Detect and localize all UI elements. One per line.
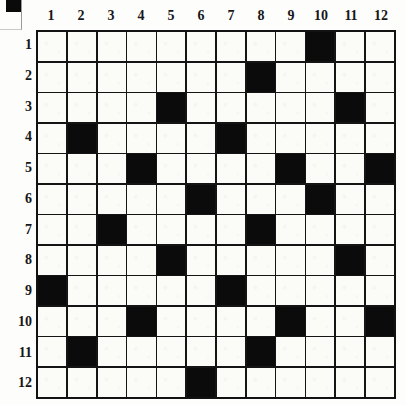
grid-cell-r4-c1[interactable] — [38, 124, 66, 153]
grid-cell-r7-c6[interactable] — [187, 215, 215, 244]
grid-cell-r7-c11[interactable] — [336, 215, 364, 244]
grid-cell-r4-c5[interactable] — [157, 124, 185, 153]
grid-cell-r9-c9[interactable] — [276, 276, 304, 305]
grid-cell-r2-c10[interactable] — [306, 63, 334, 92]
grid-cell-r3-c6[interactable] — [187, 93, 215, 122]
grid-cell-r6-c5[interactable] — [157, 185, 185, 214]
grid-cell-r3-c8[interactable] — [247, 93, 275, 122]
grid-cell-r1-c7[interactable] — [217, 32, 245, 61]
grid-cell-r2-c6[interactable] — [187, 63, 215, 92]
grid-cell-r2-c4[interactable] — [127, 63, 155, 92]
grid-cell-r12-c7[interactable] — [217, 368, 245, 397]
grid-cell-r7-c1[interactable] — [38, 215, 66, 244]
grid-cell-r10-c6[interactable] — [187, 307, 215, 336]
grid-cell-r10-c12[interactable] — [366, 307, 394, 336]
grid-cell-r11-c12[interactable] — [366, 337, 394, 366]
grid-cell-r9-c10[interactable] — [306, 276, 334, 305]
grid-cell-r9-c6[interactable] — [187, 276, 215, 305]
grid-cell-r8-c11[interactable] — [336, 246, 364, 275]
grid-cell-r1-c3[interactable] — [98, 32, 126, 61]
grid-cell-r5-c10[interactable] — [306, 154, 334, 183]
grid-cell-r11-c7[interactable] — [217, 337, 245, 366]
grid-cell-r4-c9[interactable] — [276, 124, 304, 153]
grid-cell-r3-c3[interactable] — [98, 93, 126, 122]
grid-cell-r6-c12[interactable] — [366, 185, 394, 214]
grid-cell-r7-c4[interactable] — [127, 215, 155, 244]
grid-cell-r7-c7[interactable] — [217, 215, 245, 244]
grid-cell-r11-c4[interactable] — [127, 337, 155, 366]
grid-cell-r10-c7[interactable] — [217, 307, 245, 336]
grid-cell-r6-c6[interactable] — [187, 185, 215, 214]
grid-cell-r5-c12[interactable] — [366, 154, 394, 183]
grid-cell-r6-c1[interactable] — [38, 185, 66, 214]
grid-cell-r2-c12[interactable] — [366, 63, 394, 92]
grid-cell-r1-c10[interactable] — [306, 32, 334, 61]
grid-cell-r8-c1[interactable] — [38, 246, 66, 275]
grid-cell-r4-c7[interactable] — [217, 124, 245, 153]
grid-cell-r6-c8[interactable] — [247, 185, 275, 214]
grid-cell-r6-c10[interactable] — [306, 185, 334, 214]
grid-cell-r7-c10[interactable] — [306, 215, 334, 244]
grid-cell-r9-c8[interactable] — [247, 276, 275, 305]
grid-cell-r4-c2[interactable] — [68, 124, 96, 153]
grid-cell-r12-c5[interactable] — [157, 368, 185, 397]
grid-cell-r3-c11[interactable] — [336, 93, 364, 122]
grid-cell-r3-c1[interactable] — [38, 93, 66, 122]
grid-cell-r9-c3[interactable] — [98, 276, 126, 305]
grid-cell-r11-c9[interactable] — [276, 337, 304, 366]
grid-cell-r12-c10[interactable] — [306, 368, 334, 397]
grid-cell-r2-c5[interactable] — [157, 63, 185, 92]
grid-cell-r1-c5[interactable] — [157, 32, 185, 61]
grid-cell-r5-c5[interactable] — [157, 154, 185, 183]
grid-cell-r7-c8[interactable] — [247, 215, 275, 244]
grid-cell-r10-c5[interactable] — [157, 307, 185, 336]
grid-cell-r9-c4[interactable] — [127, 276, 155, 305]
grid-cell-r7-c9[interactable] — [276, 215, 304, 244]
grid-cell-r5-c4[interactable] — [127, 154, 155, 183]
grid-cell-r4-c11[interactable] — [336, 124, 364, 153]
grid-cell-r1-c12[interactable] — [366, 32, 394, 61]
grid-cell-r11-c6[interactable] — [187, 337, 215, 366]
grid-cell-r12-c1[interactable] — [38, 368, 66, 397]
grid-cell-r8-c12[interactable] — [366, 246, 394, 275]
grid-cell-r7-c3[interactable] — [98, 215, 126, 244]
grid-cell-r11-c11[interactable] — [336, 337, 364, 366]
grid-cell-r12-c11[interactable] — [336, 368, 364, 397]
grid-cell-r8-c9[interactable] — [276, 246, 304, 275]
grid-cell-r3-c10[interactable] — [306, 93, 334, 122]
grid-cell-r11-c5[interactable] — [157, 337, 185, 366]
grid-cell-r5-c6[interactable] — [187, 154, 215, 183]
grid-cell-r2-c2[interactable] — [68, 63, 96, 92]
grid-cell-r2-c9[interactable] — [276, 63, 304, 92]
grid-cell-r7-c5[interactable] — [157, 215, 185, 244]
grid-cell-r6-c2[interactable] — [68, 185, 96, 214]
grid-cell-r8-c5[interactable] — [157, 246, 185, 275]
grid-cell-r9-c2[interactable] — [68, 276, 96, 305]
grid-cell-r8-c8[interactable] — [247, 246, 275, 275]
grid-cell-r6-c4[interactable] — [127, 185, 155, 214]
grid-cell-r1-c6[interactable] — [187, 32, 215, 61]
grid-cell-r5-c9[interactable] — [276, 154, 304, 183]
grid-cell-r12-c3[interactable] — [98, 368, 126, 397]
grid-cell-r12-c12[interactable] — [366, 368, 394, 397]
grid-cell-r10-c11[interactable] — [336, 307, 364, 336]
grid-cell-r1-c11[interactable] — [336, 32, 364, 61]
grid-cell-r11-c3[interactable] — [98, 337, 126, 366]
grid-cell-r4-c4[interactable] — [127, 124, 155, 153]
grid-cell-r6-c9[interactable] — [276, 185, 304, 214]
grid-cell-r9-c11[interactable] — [336, 276, 364, 305]
grid-cell-r8-c10[interactable] — [306, 246, 334, 275]
grid-cell-r4-c8[interactable] — [247, 124, 275, 153]
grid-cell-r10-c4[interactable] — [127, 307, 155, 336]
grid-cell-r6-c3[interactable] — [98, 185, 126, 214]
grid-cell-r5-c11[interactable] — [336, 154, 364, 183]
grid-cell-r10-c2[interactable] — [68, 307, 96, 336]
grid-cell-r8-c3[interactable] — [98, 246, 126, 275]
grid-cell-r12-c4[interactable] — [127, 368, 155, 397]
grid-cell-r1-c4[interactable] — [127, 32, 155, 61]
grid-cell-r11-c1[interactable] — [38, 337, 66, 366]
grid-cell-r4-c12[interactable] — [366, 124, 394, 153]
grid-cell-r2-c8[interactable] — [247, 63, 275, 92]
grid-cell-r8-c2[interactable] — [68, 246, 96, 275]
grid-cell-r11-c2[interactable] — [68, 337, 96, 366]
